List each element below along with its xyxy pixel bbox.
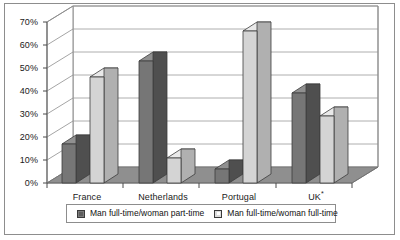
legend-swatch-dark-icon [77,210,85,218]
x-category-label-france: France [50,192,124,202]
plot-area: 70% 60% 50% 40% 30% 20% 10% 0% France Ne… [0,0,400,240]
y-tick-label-70: 70% [4,17,38,27]
legend-label-man-fulltime-woman-parttime: Man full-time/woman part-time [90,209,204,218]
y-tick-label-40: 40% [4,86,38,96]
y-tick-label-20: 20% [4,132,38,142]
y-tick-label-0: 0% [4,178,38,188]
y-tick-label-60: 60% [4,40,38,50]
bar-uk-man-fulltime-woman-parttime [292,84,320,183]
legend-swatch-light-icon [214,210,222,218]
legend-label-man-fulltime-woman-fulltime: Man full-time/woman full-time [227,209,338,218]
chart-figure: 70% 60% 50% 40% 30% 20% 10% 0% France Ne… [0,0,400,240]
chart-legend: Man full-time/woman part-time Man full-t… [66,204,336,223]
y-tick-label-10: 10% [4,155,38,165]
x-category-label-portugal: Portugal [202,192,276,202]
y-tick-label-30: 30% [4,109,38,119]
bar-france-man-fulltime-woman-fulltime [90,68,118,183]
bar-france-man-fulltime-woman-parttime [62,135,90,183]
legend-entry-man-fulltime-woman-fulltime: Man full-time/woman full-time [214,209,338,218]
x-category-label-uk-footnote-marker: * [321,190,324,197]
bar-uk-man-fulltime-woman-fulltime [320,107,348,183]
x-category-label-uk: UK* [279,192,353,202]
x-category-label-uk-text: UK [308,192,321,202]
legend-entry-man-fulltime-woman-parttime: Man full-time/woman part-time [77,209,204,218]
bar-portugal-man-fulltime-woman-fulltime [243,22,271,183]
x-category-label-netherlands: Netherlands [126,192,200,202]
bar-netherlands-man-fulltime-woman-parttime [139,52,167,183]
y-tick-label-50: 50% [4,63,38,73]
x-tick-marks [47,183,352,188]
